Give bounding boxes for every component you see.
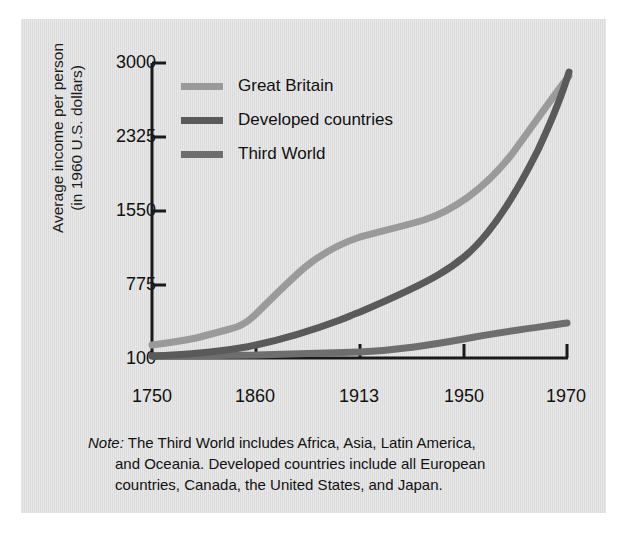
legend-item-developed-countries: Developed countries [181, 106, 393, 134]
legend-item-third-world: Third World [181, 140, 393, 168]
chart-note: Note: The Third World includes Africa, A… [88, 432, 558, 495]
note-line-1: Note: The Third World includes Africa, A… [88, 432, 558, 453]
note-line-2: and Oceania. Developed countries include… [88, 453, 558, 474]
legend-swatch-third-world [181, 151, 223, 158]
legend-label-third-world: Third World [238, 144, 326, 164]
legend-item-great-britain: Great Britain [181, 72, 393, 100]
note-text-1: The Third World includes Africa, Asia, L… [124, 434, 476, 451]
legend-swatch-developed-countries [181, 117, 223, 124]
figure-container: Average income per person (in 1960 U.S. … [0, 0, 635, 533]
legend-swatch-great-britain [181, 83, 223, 90]
note-line-3: countries, Canada, the United States, an… [88, 474, 558, 495]
note-lead: Note: [88, 434, 124, 451]
legend-label-developed-countries: Developed countries [238, 110, 393, 130]
legend-label-great-britain: Great Britain [238, 76, 333, 96]
chart-legend: Great Britain Developed countries Third … [181, 72, 393, 174]
